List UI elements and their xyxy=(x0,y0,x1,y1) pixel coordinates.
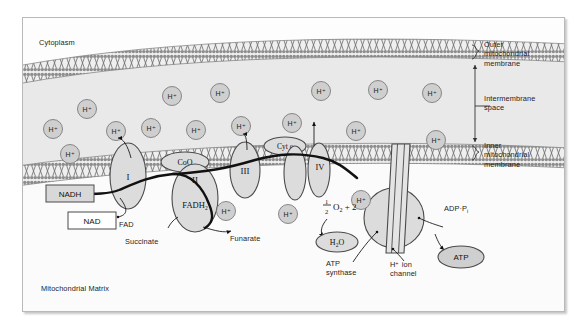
proton: H⁺ xyxy=(142,119,161,138)
complex-iv-label: IV xyxy=(316,162,326,172)
svg-text:H⁺: H⁺ xyxy=(431,137,440,144)
proton: H⁺ xyxy=(78,100,97,119)
svg-text:H⁺: H⁺ xyxy=(287,120,296,127)
atp-product: ATP xyxy=(438,246,484,268)
proton: H⁺ xyxy=(211,84,230,103)
proton: H⁺ xyxy=(347,122,366,141)
nadh-label: NADH xyxy=(59,190,82,199)
svg-text:H⁺: H⁺ xyxy=(82,106,91,113)
proton: H⁺ xyxy=(427,131,446,150)
svg-text:H⁺: H⁺ xyxy=(146,125,155,132)
svg-text:H⁺: H⁺ xyxy=(427,90,436,97)
svg-text:H⁺: H⁺ xyxy=(373,87,382,94)
diagram-canvas: H⁺ H⁺ H⁺ H⁺ H⁺ H⁺ H⁺ H⁺ H⁺ H⁺ H⁺ H⁺ H⁺ H… xyxy=(0,0,585,328)
svg-text:H⁺: H⁺ xyxy=(167,93,176,100)
inner-membrane-label: Inner mitochondrial membrane xyxy=(484,141,529,169)
fumarate-label: Funarate xyxy=(230,234,260,243)
complex-iii-label: III xyxy=(241,166,250,176)
svg-text:H⁺: H⁺ xyxy=(48,126,57,133)
atp-synthase-label: ATP synthase xyxy=(326,259,356,278)
nad-box: NAD xyxy=(68,212,116,229)
proton: H⁺ xyxy=(44,120,63,139)
intermembrane-space-label: Intermembrane space xyxy=(484,94,535,113)
svg-text:1: 1 xyxy=(325,198,328,205)
outer-membrane-label: Outer mitochondrial membrane xyxy=(484,40,529,68)
svg-text:H⁺: H⁺ xyxy=(111,128,120,135)
svg-text:H⁺: H⁺ xyxy=(191,127,200,134)
svg-text:H⁺: H⁺ xyxy=(316,88,325,95)
water-product: H2O xyxy=(316,232,358,252)
etc-illustration: H⁺ H⁺ H⁺ H⁺ H⁺ H⁺ H⁺ H⁺ H⁺ H⁺ H⁺ H⁺ H⁺ H… xyxy=(23,18,564,311)
proton: H⁺ xyxy=(312,82,331,101)
succinate-label: Succinate xyxy=(125,237,158,246)
svg-text:H⁺: H⁺ xyxy=(215,90,224,97)
complex-iii: III xyxy=(230,142,260,198)
h-ion-channel-label: H⁺ ion channel xyxy=(390,260,417,279)
svg-text:H⁺: H⁺ xyxy=(283,211,292,218)
proton: H⁺ xyxy=(61,145,80,164)
proton: H⁺ xyxy=(279,205,298,224)
complex-i: I xyxy=(110,143,146,209)
proton: H⁺ xyxy=(423,84,442,103)
proton: H⁺ xyxy=(107,122,126,141)
fadh2-label: FADH2 xyxy=(182,200,208,211)
proton: H⁺ xyxy=(232,117,251,136)
svg-text:H⁺: H⁺ xyxy=(236,123,245,130)
svg-text:O2 + 2: O2 + 2 xyxy=(333,202,357,213)
proton: H⁺ xyxy=(217,202,236,221)
svg-text:2: 2 xyxy=(325,208,328,215)
complex-i-label: I xyxy=(127,172,130,182)
mitochondrial-matrix-label: Mitochondrial Matrix xyxy=(41,284,109,293)
cytoplasm-label: Cytoplasm xyxy=(39,38,75,47)
proton: H⁺ xyxy=(369,81,388,100)
fad-label: FAD xyxy=(119,220,134,229)
proton: H⁺ xyxy=(163,87,182,106)
svg-text:H⁺: H⁺ xyxy=(65,151,74,158)
atp-label: ATP xyxy=(454,253,469,262)
proton: H⁺ xyxy=(283,114,302,133)
proton: H⁺ xyxy=(187,121,206,140)
nadh-box: NADH xyxy=(46,185,94,202)
nad-label: NAD xyxy=(84,217,101,226)
svg-text:H⁺: H⁺ xyxy=(356,197,365,204)
svg-text:H⁺: H⁺ xyxy=(351,128,360,135)
adp-pi-label: ADP·Pi xyxy=(444,204,468,215)
diagram-frame: H⁺ H⁺ H⁺ H⁺ H⁺ H⁺ H⁺ H⁺ H⁺ H⁺ H⁺ H⁺ H⁺ H… xyxy=(22,17,565,312)
svg-text:H⁺: H⁺ xyxy=(221,208,230,215)
